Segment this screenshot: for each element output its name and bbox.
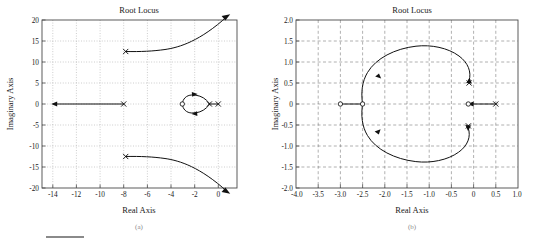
panel-a-ytick-labels: 20 15 10 5 0 -5 -10 -15 -20 [29, 16, 39, 193]
panel-a: Root Locus [0, 0, 268, 243]
xtick-label: -2.5 [357, 190, 369, 199]
ytick-label: 10 [32, 58, 40, 67]
zero-marker-o-icon [338, 102, 342, 106]
xtick-label: -6 [144, 190, 150, 199]
ytick-label: -1.5 [281, 163, 293, 172]
footer-rule [46, 236, 84, 238]
panel-a-xtick-labels: -14 -12 -10 -8 -6 -4 -2 0 [48, 190, 221, 199]
locus-branch-lower [126, 156, 227, 191]
panel-b-ytick-labels: 2.0 1.5 1.0 0.5 0 -0.5 -1.0 -1.5 -2.0 [281, 16, 293, 193]
panel-a-xaxis-label: Real Axis [122, 205, 155, 215]
xtick-label: -8 [121, 190, 127, 199]
arrow-head [51, 102, 57, 107]
xtick-label: 0 [472, 190, 476, 199]
panel-b-caption: (b) [408, 223, 417, 231]
panel-b-title: Root Locus [392, 5, 431, 15]
ytick-label: -0.5 [281, 121, 293, 130]
panel-b-yaxis-label: Imaginary Axis [270, 78, 280, 131]
ytick-label: -10 [29, 142, 39, 151]
ytick-label: 0.5 [284, 79, 293, 88]
xtick-label: -2.0 [379, 190, 391, 199]
xtick-label: 1.0 [512, 190, 521, 199]
ytick-label: 1.0 [284, 58, 293, 67]
panel-b-xtick-labels: -4.0 -3.5 -3.0 -2.5 -2.0 -1.5 -1.0 -0.5 … [291, 190, 522, 199]
panel-a-svg: Root Locus [0, 0, 268, 243]
ytick-label: 0 [289, 100, 293, 109]
panel-a-caption: (a) [135, 223, 143, 231]
zero-marker-o-icon [180, 102, 184, 106]
panel-b-xaxis-label: Real Axis [395, 205, 428, 215]
xtick-label: -10 [95, 190, 105, 199]
ytick-label: 2.0 [284, 16, 293, 25]
root-locus-figure: Root Locus [0, 0, 537, 243]
zero-markers-a [180, 102, 184, 106]
xtick-label: -3.5 [312, 190, 324, 199]
xtick-label: -2 [192, 190, 198, 199]
ytick-label: 20 [32, 16, 40, 25]
xtick-label: -3.0 [335, 190, 347, 199]
panel-a-title: Root Locus [119, 5, 158, 15]
locus-branch-upper [126, 17, 227, 52]
zero-marker-o-icon [466, 102, 470, 106]
ytick-label: 5 [35, 79, 39, 88]
panel-a-yaxis-label: Imaginary Axis [5, 78, 15, 131]
xtick-label: -14 [48, 190, 58, 199]
xtick-label: -4 [168, 190, 174, 199]
ytick-label: 0 [35, 100, 39, 109]
arrow-head [192, 111, 198, 116]
xtick-label: -12 [72, 190, 82, 199]
xtick-label: -1.5 [401, 190, 413, 199]
arrow-head [375, 73, 381, 78]
ytick-label: -20 [29, 184, 39, 193]
arrow-head [375, 129, 381, 134]
ytick-label: -5 [33, 121, 39, 130]
panel-b: Root Locus [268, 0, 537, 243]
ytick-label: 1.5 [284, 37, 293, 46]
ytick-label: 15 [32, 37, 40, 46]
ytick-label: -15 [29, 163, 39, 172]
xtick-label: 0 [216, 190, 220, 199]
ytick-label: -1.0 [281, 142, 293, 151]
ytick-label: -2.0 [281, 184, 293, 193]
xtick-label: -1.0 [423, 190, 435, 199]
panel-b-svg: Root Locus [268, 0, 537, 243]
xtick-label: -0.5 [446, 190, 458, 199]
xtick-label: 0.5 [491, 190, 500, 199]
zero-marker-o-icon [360, 102, 364, 106]
